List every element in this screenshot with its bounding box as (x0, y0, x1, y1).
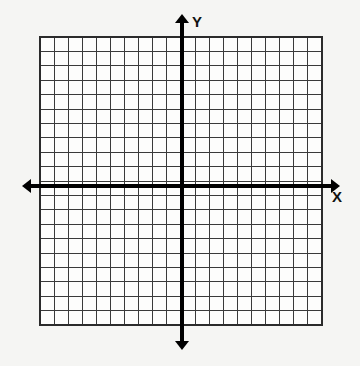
coordinate-grid-figure: X Y (0, 0, 360, 366)
coordinate-grid-canvas: X Y (0, 0, 360, 366)
y-axis-label: Y (192, 13, 202, 30)
x-axis-label: X (332, 188, 342, 205)
